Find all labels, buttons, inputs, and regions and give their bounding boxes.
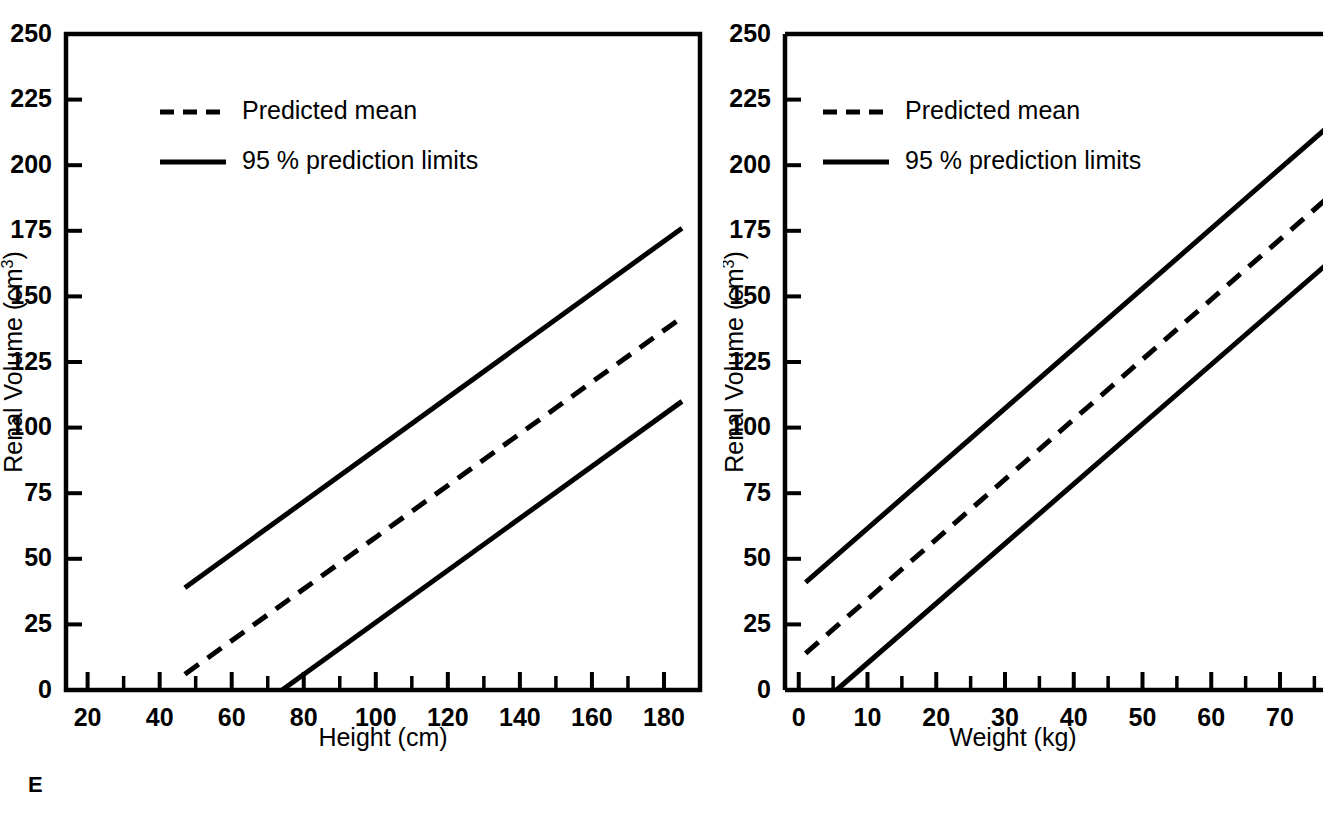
y-axis-title-text: Renal Volume (cm3): [723, 251, 748, 472]
y-tick-label: 175: [10, 215, 52, 243]
x-tick-label: 20: [922, 703, 950, 731]
legend-label-prediction-limits: 95 % prediction limits: [242, 146, 478, 174]
series-line: [806, 121, 1323, 583]
y-tick-label: 175: [729, 215, 771, 243]
x-tick-label: 60: [218, 703, 246, 731]
y-tick-label: 0: [38, 675, 52, 703]
y-tick-label: 250: [10, 19, 52, 47]
y-tick-label: 0: [757, 675, 771, 703]
y-tick-label: 50: [24, 543, 52, 571]
y-tick-label: 250: [729, 19, 771, 47]
y-tick-label: 225: [10, 84, 52, 112]
y-tick-label: 200: [10, 150, 52, 178]
legend-label-predicted-mean: Predicted mean: [242, 96, 417, 124]
x-tick-label: 180: [643, 703, 685, 731]
x-tick-label: 160: [571, 703, 613, 731]
x-tick-label: 80: [290, 703, 318, 731]
y-tick-label: 225: [729, 84, 771, 112]
y-tick-label: 50: [743, 543, 771, 571]
y-axis-title: Renal Volume (cm3): [0, 251, 27, 472]
x-axis-title: Weight (kg): [949, 723, 1076, 751]
series-line: [185, 317, 682, 674]
renal-volume-weight-plot: 0255075100125150175200225250010203040506…: [723, 0, 1323, 829]
x-tick-label: 20: [74, 703, 102, 731]
x-tick-label: 40: [146, 703, 174, 731]
x-tick-label: 70: [1266, 703, 1294, 731]
y-tick-label: 200: [729, 150, 771, 178]
legend-label-prediction-limits: 95 % prediction limits: [905, 146, 1141, 174]
x-tick-label: 60: [1197, 703, 1225, 731]
x-tick-label: 0: [792, 703, 806, 731]
series-line: [185, 228, 682, 587]
renal-volume-height-plot: 0255075100125150175200225250204060801001…: [0, 0, 723, 829]
y-tick-label: 25: [24, 609, 52, 637]
x-tick-label: 50: [1129, 703, 1157, 731]
panel-letter-e: E: [28, 772, 43, 798]
x-tick-label: 10: [854, 703, 882, 731]
y-tick-label: 75: [743, 478, 771, 506]
y-tick-label: 75: [24, 478, 52, 506]
legend-label-predicted-mean: Predicted mean: [905, 96, 1080, 124]
y-axis-title: Renal Volume (cm3): [723, 251, 748, 472]
y-axis-title-text: Renal Volume (cm3): [0, 251, 27, 472]
x-tick-label: 140: [499, 703, 541, 731]
chart-panel-f: 0255075100125150175200225250010203040506…: [723, 0, 1323, 829]
series-line: [806, 191, 1323, 653]
series-line: [837, 257, 1323, 690]
x-axis-title: Height (cm): [318, 723, 447, 751]
plot-frame: [66, 34, 700, 690]
chart-panel-e: 0255075100125150175200225250204060801001…: [0, 0, 723, 829]
series-line: [282, 401, 682, 690]
y-tick-label: 25: [743, 609, 771, 637]
